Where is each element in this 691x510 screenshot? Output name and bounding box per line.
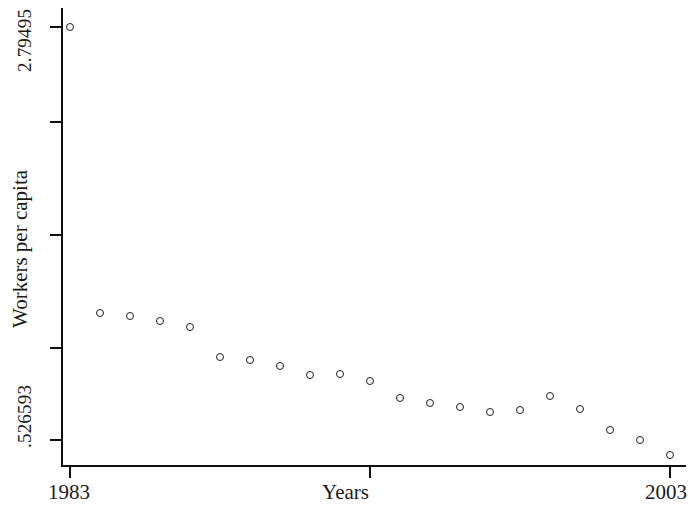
data-point (456, 403, 464, 411)
data-point (576, 405, 584, 413)
data-point (306, 371, 314, 379)
scatter-plot-figure: 2.79495 .526593 1983 2003 Workers per ca… (0, 0, 691, 510)
data-point (126, 312, 134, 320)
y-axis-tick-label-max: 2.79495 (14, 9, 36, 72)
data-point (546, 392, 554, 400)
data-point (396, 394, 404, 402)
data-point (156, 317, 164, 325)
data-point (246, 356, 254, 364)
data-point (366, 377, 374, 385)
x-axis-tick-1 (369, 467, 371, 478)
data-point (666, 451, 674, 459)
x-axis-title: Years (0, 480, 691, 505)
plot-area (61, 8, 681, 466)
data-point (276, 362, 284, 370)
data-point (486, 408, 494, 416)
data-point (66, 23, 74, 31)
x-axis-tick-0 (69, 467, 71, 478)
data-point (636, 436, 644, 444)
data-point (186, 323, 194, 331)
data-point (606, 426, 614, 434)
data-point (96, 309, 104, 317)
y-axis-title: Workers per capita (8, 170, 33, 328)
x-axis-tick-2 (669, 467, 671, 478)
data-point (426, 399, 434, 407)
data-point (216, 353, 224, 361)
data-point (516, 406, 524, 414)
y-axis-tick-label-min: .526593 (14, 385, 36, 448)
data-point (336, 370, 344, 378)
